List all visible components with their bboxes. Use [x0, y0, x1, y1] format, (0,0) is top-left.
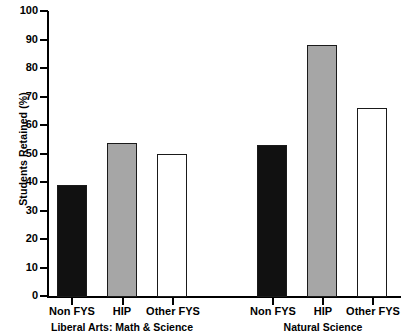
group-label-natural-science: Natural Science: [258, 322, 388, 334]
y-tick-label-90: 90: [0, 34, 38, 45]
x-axis-line: [47, 296, 401, 298]
bar-g2-non-fys: [257, 145, 287, 297]
y-tick-0: [40, 295, 48, 297]
y-tick-90: [40, 39, 48, 41]
bar-g1-hip: [107, 143, 137, 297]
y-tick-label-60: 60: [0, 119, 38, 130]
y-tick-40: [40, 181, 48, 183]
x-tick-g2-hip: [322, 298, 324, 305]
x-label-g2-other-fys: Other FYS: [333, 305, 402, 317]
y-tick-60: [40, 124, 48, 126]
y-tick-label-10: 10: [0, 262, 38, 273]
y-tick-label-0: 0: [0, 290, 38, 301]
group-label-liberal-arts: Liberal Arts: Math & Science: [27, 322, 217, 334]
x-tick-g1-hip: [122, 298, 124, 305]
bar-g1-other-fys: [157, 154, 187, 297]
y-tick-label-30: 30: [0, 205, 38, 216]
y-tick-label-80: 80: [0, 62, 38, 73]
y-tick-label-20: 20: [0, 233, 38, 244]
y-tick-label-70: 70: [0, 91, 38, 102]
y-tick-70: [40, 96, 48, 98]
y-tick-label-40: 40: [0, 176, 38, 187]
x-tick-g2-other-fys: [372, 298, 374, 305]
y-tick-30: [40, 210, 48, 212]
y-tick-20: [40, 238, 48, 240]
bar-g2-hip: [307, 45, 337, 297]
y-tick-label-50: 50: [0, 148, 38, 159]
y-tick-100: [40, 10, 48, 12]
x-tick-g1-non-fys: [71, 298, 73, 305]
bar-g1-non-fys: [57, 185, 87, 297]
y-tick-label-100: 100: [0, 5, 38, 16]
y-tick-10: [40, 267, 48, 269]
x-tick-g1-other-fys: [172, 298, 174, 305]
y-tick-80: [40, 67, 48, 69]
bar-g2-other-fys: [357, 108, 387, 297]
y-tick-50: [40, 153, 48, 155]
x-tick-g2-non-fys: [272, 298, 274, 305]
bar-chart: Students Retained (%) 100 90 80 70 60 50…: [0, 0, 402, 335]
x-label-g1-other-fys: Other FYS: [133, 305, 213, 317]
